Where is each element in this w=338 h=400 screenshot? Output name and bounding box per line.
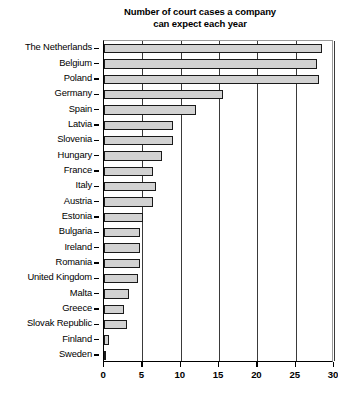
- bar[interactable]: [104, 121, 173, 131]
- y-axis-tick: [94, 78, 99, 79]
- y-axis-label: Finland: [62, 334, 92, 344]
- y-axis-label: Ireland: [64, 242, 92, 252]
- x-axis-tick: [333, 362, 334, 367]
- bar-row: [104, 179, 332, 194]
- bar[interactable]: [104, 59, 317, 69]
- bar-row: [104, 194, 332, 209]
- y-axis-label: Latvia: [68, 119, 92, 129]
- y-axis-tick: [94, 293, 99, 294]
- plot-area: [103, 40, 333, 362]
- y-axis-tick: [94, 262, 99, 263]
- y-axis-tick: [94, 155, 99, 156]
- chart-title: Number of court cases a company can expe…: [70, 6, 330, 30]
- bar[interactable]: [104, 213, 143, 223]
- bar[interactable]: [104, 305, 124, 315]
- y-axis-tick: [94, 186, 99, 187]
- bar[interactable]: [104, 259, 140, 269]
- y-axis-label: The Netherlands: [25, 42, 92, 52]
- y-axis-label: Slovak Republic: [27, 318, 92, 328]
- bar[interactable]: [104, 182, 156, 192]
- bar-row: [104, 133, 332, 148]
- bar[interactable]: [104, 274, 138, 284]
- y-axis-tick: [94, 308, 99, 309]
- x-axis-labels: 051015202530: [103, 369, 333, 383]
- y-axis-tick: [94, 339, 99, 340]
- bar[interactable]: [104, 197, 153, 207]
- x-axis-label: 30: [328, 369, 338, 381]
- bar-row: [104, 118, 332, 133]
- y-axis-tick: [94, 63, 99, 64]
- y-axis-label: Poland: [64, 73, 92, 83]
- bar-row: [104, 87, 332, 102]
- x-axis-label: 10: [175, 369, 185, 381]
- bar[interactable]: [104, 75, 319, 85]
- y-axis-label: France: [64, 165, 92, 175]
- bar[interactable]: [104, 105, 196, 115]
- y-axis-label: Italy: [76, 180, 92, 190]
- x-axis-label: 15: [213, 369, 223, 381]
- x-axis-label: 25: [290, 369, 300, 381]
- y-axis-tick: [94, 232, 99, 233]
- bar-row: [104, 286, 332, 301]
- y-axis-tick: [94, 201, 99, 202]
- bar-row: [104, 240, 332, 255]
- bar-row: [104, 271, 332, 286]
- bar-series: [104, 41, 332, 361]
- bar[interactable]: [104, 289, 129, 299]
- x-axis-tick: [256, 362, 257, 367]
- bar-row: [104, 72, 332, 87]
- bar-row: [104, 256, 332, 271]
- bar[interactable]: [104, 90, 223, 100]
- y-axis-tick: [94, 324, 99, 325]
- bar-row: [104, 41, 332, 56]
- bar-row: [104, 332, 332, 347]
- x-axis-tick: [180, 362, 181, 367]
- bar-row: [104, 302, 332, 317]
- x-axis-label: 0: [100, 369, 105, 381]
- bar[interactable]: [104, 243, 140, 253]
- y-axis-tick: [94, 124, 99, 125]
- y-axis-tick: [94, 94, 99, 95]
- bar-row: [104, 225, 332, 240]
- y-axis-label: Hungary: [58, 150, 92, 160]
- bar-row: [104, 348, 332, 363]
- y-axis-tick: [94, 354, 99, 355]
- bar[interactable]: [104, 335, 109, 345]
- x-axis-tick: [295, 362, 296, 367]
- y-axis-tick: [94, 140, 99, 141]
- bar-row: [104, 210, 332, 225]
- chart-title-line-2: can expect each year: [70, 18, 330, 30]
- bar[interactable]: [104, 44, 322, 54]
- bar-row: [104, 148, 332, 163]
- x-axis-tick: [218, 362, 219, 367]
- y-axis-label: Romania: [56, 257, 92, 267]
- y-axis-label: Malta: [70, 288, 92, 298]
- y-axis-label: Belgium: [59, 58, 92, 68]
- y-axis-label: Austria: [64, 196, 92, 206]
- y-axis-tick: [94, 109, 99, 110]
- y-axis-tick: [94, 48, 99, 49]
- y-axis-label: Slovenia: [57, 134, 92, 144]
- bar-row: [104, 102, 332, 117]
- y-axis-label: Estonia: [62, 211, 92, 221]
- bar[interactable]: [104, 167, 153, 177]
- bar[interactable]: [104, 320, 127, 330]
- bar[interactable]: [104, 351, 106, 361]
- bar[interactable]: [104, 151, 162, 161]
- y-axis-label: United Kingdom: [27, 272, 92, 282]
- gridline: [334, 41, 335, 361]
- y-axis-tick: [94, 170, 99, 171]
- bar[interactable]: [104, 136, 173, 146]
- chart-title-line-1: Number of court cases a company: [70, 6, 330, 18]
- y-axis-tick: [94, 247, 99, 248]
- bar-row: [104, 56, 332, 71]
- bar[interactable]: [104, 228, 140, 238]
- x-axis-tick: [141, 362, 142, 367]
- y-axis: The NetherlandsBelgiumPolandGermanySpain…: [0, 40, 99, 362]
- x-axis-label: 20: [251, 369, 261, 381]
- x-axis-ticks: [103, 362, 333, 368]
- y-axis-label: Spain: [69, 104, 92, 114]
- y-axis-label: Bulgaria: [59, 226, 92, 236]
- x-axis-tick: [103, 362, 104, 367]
- y-axis-label: Sweden: [59, 349, 92, 359]
